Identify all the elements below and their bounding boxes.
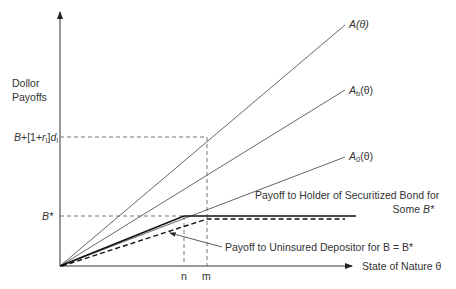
annot-bond-2: Some B* <box>393 203 435 215</box>
annot-depositor: Payoff to Uninsured Depositor for B = B* <box>225 241 413 253</box>
label-A0: A0(θ) <box>348 150 373 164</box>
line-Ab <box>60 90 345 266</box>
label-A: A(θ) <box>348 18 369 30</box>
line-A <box>60 25 345 266</box>
x-tick-n: n <box>181 270 187 282</box>
y-tick-bstar: B* <box>42 210 54 222</box>
annot-bond-1: Payoff to Holder of Securitized Bond for <box>255 189 440 201</box>
y-tick-high: B+[1+rI]dI <box>14 131 58 144</box>
x-axis-label: State of Nature θ <box>362 260 442 272</box>
depositor-annotation-arrow <box>170 233 222 247</box>
payoff-diagram: Dollor Payoffs B+[1+rI]dI B* n m State o… <box>0 0 456 289</box>
x-tick-m: m <box>202 270 211 282</box>
y-axis-label-2: Payoffs <box>12 91 47 103</box>
label-Ab: Ab(θ) <box>348 84 373 98</box>
y-axis-label-1: Dollor <box>12 77 40 89</box>
